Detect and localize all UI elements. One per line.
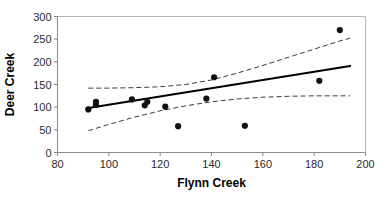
y-tick-label: 50 — [39, 124, 51, 136]
y-tick-label: 250 — [33, 33, 51, 45]
data-point — [242, 123, 248, 129]
data-point — [129, 96, 135, 102]
plot-frame — [58, 17, 366, 153]
data-point — [144, 99, 150, 105]
x-axis: 80100120140160180200 — [51, 153, 374, 170]
data-point — [175, 123, 181, 129]
scatter-chart: 050100150200250300 80100120140160180200 … — [0, 0, 388, 201]
x-tick-label: 160 — [254, 158, 272, 170]
plot-frame-border — [58, 17, 366, 153]
data-point — [85, 106, 91, 112]
regression-line — [88, 66, 350, 108]
chart-canvas: 050100150200250300 80100120140160180200 … — [0, 0, 388, 201]
y-axis-title: Deer Creek — [3, 52, 17, 116]
x-axis-tick-labels: 80100120140160180200 — [51, 158, 374, 170]
data-points — [85, 27, 343, 129]
data-point — [162, 104, 168, 110]
y-tick-label: 200 — [33, 56, 51, 68]
x-tick-label: 80 — [51, 158, 63, 170]
x-tick-label: 180 — [305, 158, 323, 170]
x-tick-label: 120 — [151, 158, 169, 170]
data-point — [316, 78, 322, 84]
upper-confidence-band — [88, 38, 350, 88]
x-tick-label: 100 — [100, 158, 118, 170]
data-point — [337, 27, 343, 33]
data-point — [93, 99, 99, 105]
y-axis-tick-labels: 050100150200250300 — [33, 11, 51, 159]
y-tick-label: 300 — [33, 11, 51, 23]
y-tick-label: 150 — [33, 79, 51, 91]
data-point — [203, 95, 209, 101]
y-axis: 050100150200250300 — [33, 11, 57, 159]
x-axis-title: Flynn Creek — [177, 176, 246, 190]
confidence-bands — [88, 38, 350, 130]
data-point — [211, 74, 217, 80]
y-tick-label: 100 — [33, 101, 51, 113]
x-tick-label: 140 — [202, 158, 220, 170]
x-tick-label: 200 — [356, 158, 374, 170]
